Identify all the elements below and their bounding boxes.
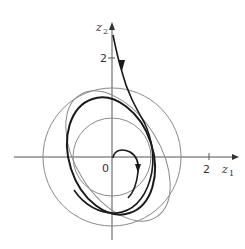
- direction-arrow-icon: [135, 164, 141, 173]
- z1-label: z: [221, 163, 228, 176]
- z1-tick-label: 2: [203, 163, 210, 176]
- z2-tick-label: 2: [100, 52, 107, 65]
- z2-axis: [108, 22, 115, 240]
- origin-label: 0: [102, 162, 109, 175]
- z2-label-sub: 2: [103, 27, 108, 36]
- direction-arrow-icon: [118, 60, 125, 71]
- z1-label-sub: 1: [229, 169, 234, 178]
- z1-axis: [14, 153, 239, 160]
- phase-portrait-figure: z 2 2 2 z 1 0: [0, 0, 245, 249]
- z1-arrow-icon: [232, 154, 239, 160]
- limit-cycle: [53, 86, 170, 226]
- z2-label: z: [95, 21, 102, 34]
- z2-arrow-icon: [109, 22, 115, 30]
